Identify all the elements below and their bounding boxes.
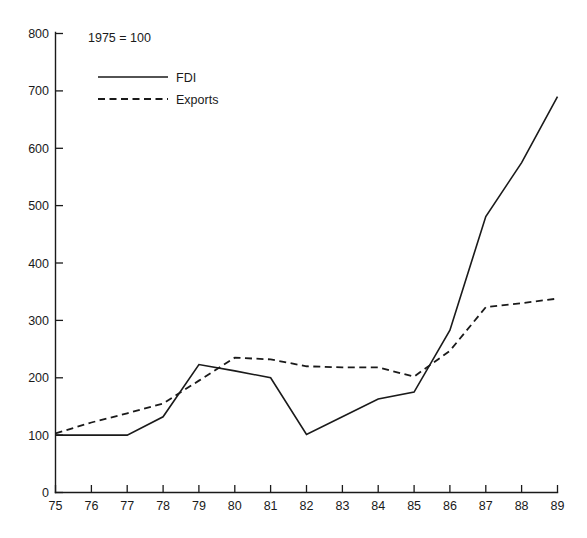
x-tick-label: 84 bbox=[371, 499, 385, 513]
x-tick-label: 79 bbox=[192, 499, 206, 513]
series-line-fdi bbox=[56, 97, 558, 436]
y-tick-label: 0 bbox=[42, 486, 49, 500]
y-axis-ticks bbox=[56, 34, 64, 493]
x-tick-label: 77 bbox=[120, 499, 134, 513]
y-axis-tick-labels: 0 100 200 300 400 500 600 700 800 bbox=[28, 27, 49, 500]
chart-container: 0 100 200 300 400 500 600 700 800 bbox=[0, 0, 587, 538]
y-tick-label: 700 bbox=[28, 84, 49, 98]
y-tick-label: 500 bbox=[28, 199, 49, 213]
x-tick-label: 81 bbox=[264, 499, 278, 513]
x-axis-tick-labels: 75 76 77 78 79 80 81 82 83 84 85 86 87 8… bbox=[49, 499, 565, 513]
legend-label-fdi: FDI bbox=[176, 71, 196, 85]
x-axis-ticks bbox=[56, 485, 558, 493]
y-tick-label: 200 bbox=[28, 371, 49, 385]
line-chart: 0 100 200 300 400 500 600 700 800 bbox=[0, 0, 587, 538]
x-tick-label: 83 bbox=[335, 499, 349, 513]
y-tick-label: 400 bbox=[28, 257, 49, 271]
series-line-exports bbox=[56, 299, 558, 434]
x-tick-label: 76 bbox=[84, 499, 98, 513]
x-tick-label: 80 bbox=[228, 499, 242, 513]
x-tick-label: 89 bbox=[551, 499, 565, 513]
y-tick-label: 300 bbox=[28, 314, 49, 328]
x-tick-label: 86 bbox=[443, 499, 457, 513]
x-tick-label: 78 bbox=[156, 499, 170, 513]
x-tick-label: 87 bbox=[479, 499, 493, 513]
y-tick-label: 100 bbox=[28, 429, 49, 443]
legend-label-exports: Exports bbox=[176, 93, 218, 107]
x-tick-label: 82 bbox=[300, 499, 314, 513]
y-tick-label: 800 bbox=[28, 27, 49, 41]
x-tick-label: 75 bbox=[49, 499, 63, 513]
base-year-annotation: 1975 = 100 bbox=[88, 31, 151, 45]
x-tick-label: 88 bbox=[515, 499, 529, 513]
chart-legend: FDI Exports bbox=[98, 71, 218, 107]
y-tick-label: 600 bbox=[28, 142, 49, 156]
x-tick-label: 85 bbox=[407, 499, 421, 513]
